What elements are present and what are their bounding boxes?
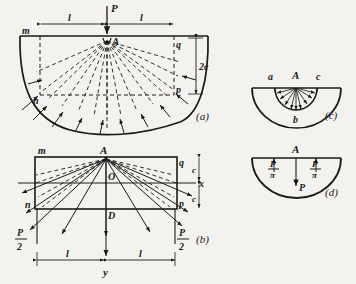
panel-a-span-left-label: l <box>68 12 71 23</box>
panel-b-label-p: p <box>178 198 184 209</box>
panel-c-label-A: A <box>291 69 299 81</box>
panel-a-caption: (a) <box>196 110 209 123</box>
panel-b-span-left-label: l <box>66 248 69 259</box>
panel-b-left-reaction-numerator: P <box>17 227 24 238</box>
panel-b-caption: (b) <box>196 233 209 246</box>
panel-a-depth-label: 2c <box>198 61 209 72</box>
panel-b-y-axis-label: y <box>101 266 108 278</box>
panel-d-label-A: A <box>291 143 299 155</box>
panel-b-label-n: n <box>25 199 31 210</box>
panel-b-point-d-label: D <box>107 210 115 221</box>
panel-b-upper-c-label: c <box>192 165 196 175</box>
panel-d-caption: (d) <box>325 186 338 199</box>
panel-c-label-c: c <box>316 71 321 82</box>
panel-a-load-label: P <box>111 2 118 14</box>
panel-a-span-right-label: l <box>140 12 143 23</box>
panel-b-right-reaction-denominator: 2 <box>178 241 184 252</box>
panel-b-lower-c-label: c <box>192 194 196 204</box>
panel-a-label-m: m <box>22 25 30 36</box>
panel-a-label-q: q <box>176 39 181 50</box>
panel-a-label-n: n <box>33 95 39 106</box>
panel-b-left-reaction-denominator: 2 <box>16 241 22 252</box>
panel-b-span-right-label: l <box>139 248 142 259</box>
panel-c-label-a: a <box>268 71 273 82</box>
panel-d-left-numerator: P <box>270 159 276 169</box>
diagram-canvas: P A l l 2c <box>0 0 356 284</box>
panel-b-label-m: m <box>38 145 46 156</box>
panel-b-apex-label: A <box>99 144 107 156</box>
panel-d-load-label: P <box>299 182 306 193</box>
panel-b-right-reaction-numerator: P <box>179 227 186 238</box>
mechanics-diagram: P A l l 2c <box>0 0 356 284</box>
panel-d-right-numerator: P <box>312 159 318 169</box>
panel-b-label-q: q <box>179 157 184 168</box>
panel-c-label-b: b <box>293 114 298 125</box>
panel-a-label-p: p <box>175 84 181 95</box>
panel-c-caption: (c) <box>325 109 338 122</box>
